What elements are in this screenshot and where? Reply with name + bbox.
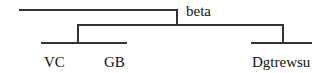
leaf-label-gb: GB xyxy=(104,55,125,70)
leaf-label-vc: VC xyxy=(44,55,65,70)
right-drop-line xyxy=(282,24,284,44)
right-leaf-line xyxy=(251,42,312,44)
leaf-label-dgtrewsu: Dgtrewsu xyxy=(252,55,310,70)
root-label: beta xyxy=(186,4,211,19)
left-drop-line xyxy=(77,24,79,44)
left-leaf-line xyxy=(41,42,127,44)
tree-diagram: beta VC GB Dgtrewsu xyxy=(0,0,329,73)
root-branch-line xyxy=(19,9,178,11)
internal-branch-line xyxy=(77,24,284,26)
